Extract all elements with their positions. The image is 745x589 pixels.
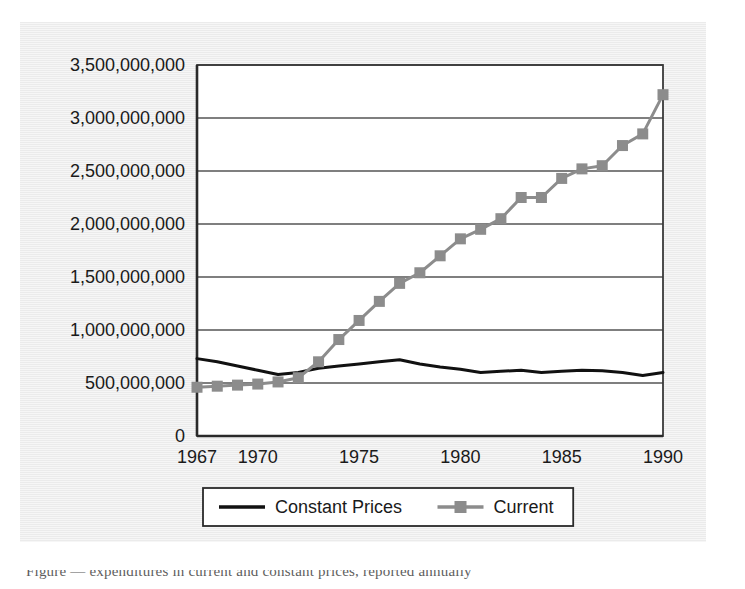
data-point-marker (536, 192, 547, 203)
x-tick-label: 1970 (238, 447, 278, 467)
y-tick-label: 500,000,000 (85, 373, 185, 393)
y-tick-label: 3,000,000,000 (70, 108, 185, 128)
y-tick-label: 1,000,000,000 (70, 320, 185, 340)
y-tick-label: 0 (175, 426, 185, 446)
caption-text: Figure — expenditures in current and con… (26, 570, 472, 580)
data-point-marker (313, 356, 324, 367)
data-point-marker (455, 233, 466, 244)
x-axis-tick-labels: 196719701975198019851990 (177, 447, 683, 467)
data-point-marker (597, 160, 608, 171)
y-tick-label: 1,500,000,000 (70, 267, 185, 287)
legend-label: Current (494, 497, 554, 517)
y-tick-label: 2,500,000,000 (70, 161, 185, 181)
y-axis-tick-labels: 0500,000,0001,000,000,0001,500,000,0002,… (70, 55, 185, 446)
data-point-marker (212, 381, 223, 392)
data-point-marker (414, 267, 425, 278)
y-tick-label: 2,000,000,000 (70, 214, 185, 234)
data-point-marker (576, 163, 587, 174)
data-point-marker (374, 296, 385, 307)
data-point-marker (435, 250, 446, 261)
data-point-marker (333, 334, 344, 345)
data-point-marker (232, 380, 243, 391)
data-point-marker (354, 315, 365, 326)
x-tick-label: 1967 (177, 447, 217, 467)
data-point-marker (394, 278, 405, 289)
data-point-marker (192, 382, 203, 393)
data-point-marker (516, 192, 527, 203)
data-point-marker (658, 89, 669, 100)
data-point-marker (495, 213, 506, 224)
data-point-marker (617, 140, 628, 151)
data-point-marker (293, 372, 304, 383)
legend-marker-sample (455, 501, 467, 513)
data-point-marker (637, 128, 648, 139)
plot-area-background (197, 65, 663, 436)
chart-legend: Constant PricesCurrent (203, 488, 573, 526)
x-tick-label: 1985 (542, 447, 582, 467)
chart-page: 0500,000,0001,000,000,0001,500,000,0002,… (0, 0, 745, 589)
x-tick-label: 1980 (440, 447, 480, 467)
y-tick-label: 3,500,000,000 (70, 55, 185, 75)
x-tick-label: 1990 (643, 447, 683, 467)
data-point-marker (252, 379, 263, 390)
data-point-marker (556, 173, 567, 184)
line-chart: 0500,000,0001,000,000,0001,500,000,0002,… (20, 22, 706, 542)
legend-label: Constant Prices (275, 497, 402, 517)
x-tick-label: 1975 (339, 447, 379, 467)
caption-fragment: Figure — expenditures in current and con… (26, 570, 726, 588)
figure-panel: 0500,000,0001,000,000,0001,500,000,0002,… (20, 22, 706, 542)
data-point-marker (273, 376, 284, 387)
data-point-marker (475, 224, 486, 235)
